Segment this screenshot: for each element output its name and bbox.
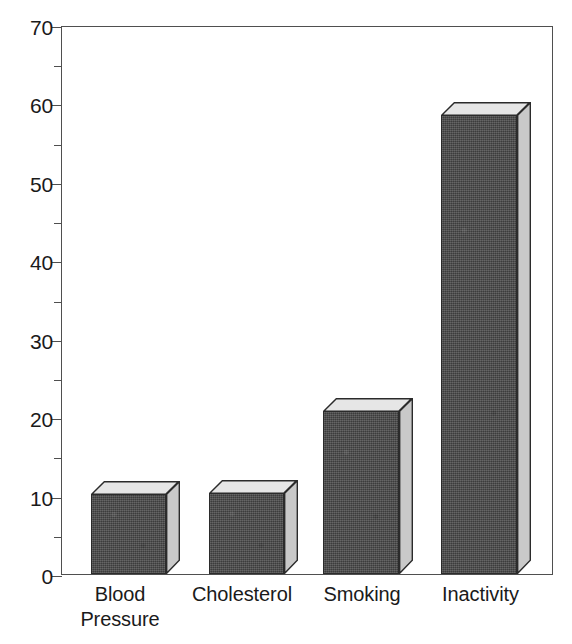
bar-front-face	[209, 493, 284, 574]
plot-area: 70 60 50 40 30 20 10 0	[61, 26, 553, 575]
bar-front-face	[323, 411, 399, 574]
y-tick-mark	[54, 380, 62, 381]
bar-inactivity	[441, 115, 517, 574]
y-tick-label: 70	[30, 17, 53, 38]
x-label-cholesterol: Cholesterol	[172, 582, 312, 607]
bar-side-face	[284, 480, 298, 574]
x-label-inactivity: Inactivity	[413, 582, 548, 607]
bar-front-face	[441, 115, 517, 574]
x-label-blood-pressure: Blood Pressure	[55, 582, 185, 632]
bar-blood-pressure	[91, 494, 166, 574]
y-tick-label: 30	[30, 330, 53, 351]
y-tick-mark	[54, 66, 62, 67]
y-tick-label: 20	[30, 409, 53, 430]
x-label-smoking: Smoking	[297, 582, 427, 607]
y-tick-mark	[54, 223, 62, 224]
bar-side-face	[517, 102, 531, 574]
y-tick-label: 50	[30, 173, 53, 194]
bar-chart: 70 60 50 40 30 20 10 0	[0, 0, 572, 644]
bar-side-face	[166, 481, 180, 574]
y-tick-mark	[54, 302, 62, 303]
y-tick-label: 40	[30, 252, 53, 273]
y-tick-label: 10	[30, 487, 53, 508]
bar-cholesterol	[209, 493, 284, 574]
bar-side-face	[399, 398, 413, 574]
y-tick-label: 60	[30, 95, 53, 116]
bar-front-face	[91, 494, 166, 574]
y-tick-label: 0	[42, 566, 53, 587]
y-tick-mark	[54, 537, 62, 538]
bar-smoking	[323, 411, 399, 574]
y-tick-mark	[54, 145, 62, 146]
y-tick-mark	[54, 458, 62, 459]
